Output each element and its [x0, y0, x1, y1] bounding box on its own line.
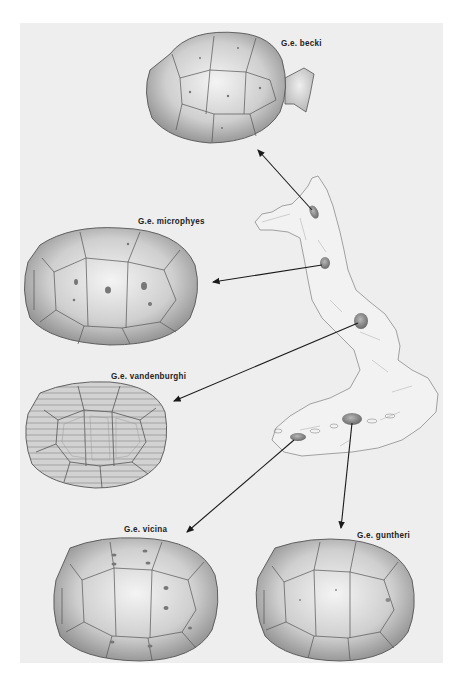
shell-guntheri: [256, 539, 414, 661]
shell-microphyes: [24, 228, 197, 345]
arrow-becki: [258, 150, 312, 210]
label-guntheri: G.e. guntheri: [357, 529, 410, 540]
arrow-microphyes: [213, 265, 322, 282]
label-microphyes: G.e. microphyes: [138, 215, 205, 226]
illustration: [0, 0, 463, 680]
shell-vandenburghi: [26, 382, 167, 488]
label-becki: G.e. becki: [281, 37, 322, 48]
shell-becki: [146, 32, 314, 143]
arrow-vicina: [187, 440, 294, 532]
label-vandenburghi: G.e. vandenburghi: [111, 370, 186, 381]
island-map: [255, 176, 438, 456]
volcano-microphyes: [320, 257, 330, 269]
arrow-vandenburghi: [174, 323, 358, 401]
volcano-vandenburghi: [354, 313, 368, 329]
volcano-vicina: [290, 433, 306, 441]
label-vicina: G.e. vicina: [124, 523, 167, 534]
shell-vicina: [54, 538, 218, 661]
